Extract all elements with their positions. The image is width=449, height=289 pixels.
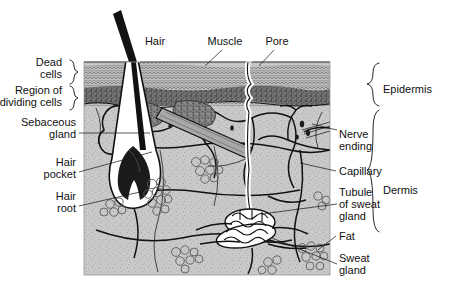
- bracket-epidermis: [367, 63, 379, 106]
- label-hair-root-line2: root: [57, 202, 76, 214]
- label-hair-pocket-line2: pocket: [44, 168, 76, 180]
- label-pore: Pore: [265, 35, 288, 47]
- hair-shaft-external: [113, 10, 137, 62]
- label-dividing-cells-line2: dividing cells: [0, 96, 62, 108]
- label-nerve-ending-line1: Nerve: [339, 128, 368, 140]
- label-dividing-cells-line1: Region of: [15, 84, 63, 96]
- label-epidermis: Epidermis: [383, 83, 432, 95]
- bracket-dead-cells: [70, 60, 78, 84]
- bracket-dividing-cells: [70, 86, 78, 110]
- label-hair-root-line1: Hair: [56, 190, 77, 202]
- label-capillary: Capillary: [339, 165, 382, 177]
- label-fat: Fat: [339, 230, 355, 242]
- label-dermis: Dermis: [383, 184, 418, 196]
- label-sweat-gland-line2: gland: [339, 264, 366, 276]
- label-tubule-line1: Tubule: [339, 186, 372, 198]
- label-tubule-line3: gland: [339, 210, 366, 222]
- label-sebaceous-gland-line2: gland: [49, 128, 76, 140]
- label-dead-cells-line1: Dead: [36, 56, 62, 68]
- label-tubule-line2: of sweat: [339, 198, 380, 210]
- label-hair: Hair: [145, 35, 166, 47]
- label-nerve-ending-line2: ending: [339, 140, 372, 152]
- diagram-canvas: Hair Muscle Pore Dead cells Region of di…: [0, 0, 449, 289]
- label-muscle: Muscle: [208, 35, 243, 47]
- skin-cross-section-figure: Hair Muscle Pore Dead cells Region of di…: [0, 0, 449, 289]
- top-labels: Hair Muscle Pore: [145, 35, 289, 66]
- label-sebaceous-gland-line1: Sebaceous: [21, 116, 77, 128]
- label-sweat-gland-line1: Sweat: [339, 252, 370, 264]
- skin-block: [84, 10, 330, 275]
- label-hair-pocket-line1: Hair: [56, 156, 77, 168]
- label-dead-cells-line2: cells: [40, 68, 63, 80]
